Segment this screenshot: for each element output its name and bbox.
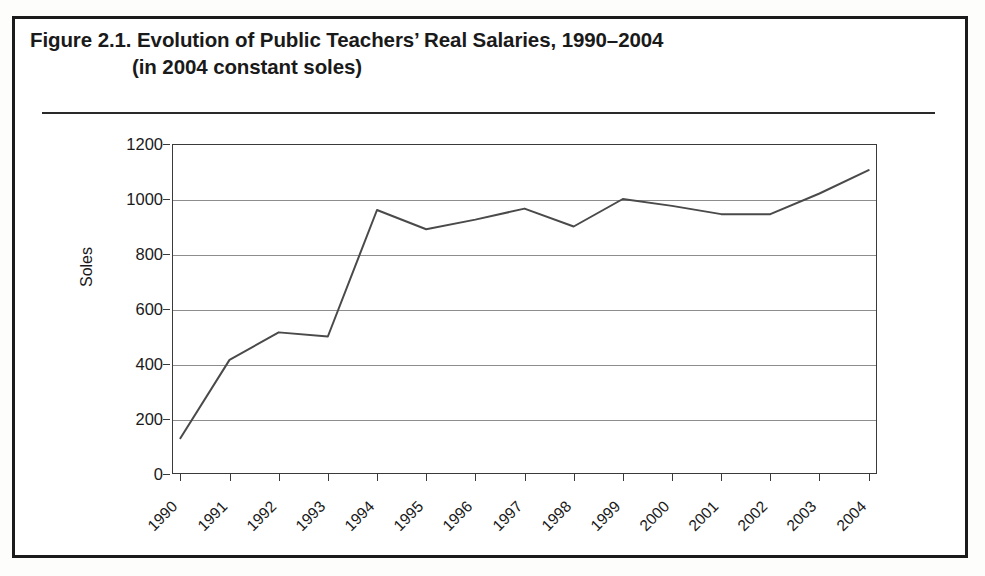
x-tick-mark-1996 — [475, 474, 476, 481]
x-tick-label-1995: 1995 — [390, 498, 427, 535]
x-tick-mark-2004 — [869, 474, 870, 481]
x-tick-mark-2000 — [672, 474, 673, 481]
y-tick-label-800: 800 — [135, 245, 163, 264]
x-tick-mark-2001 — [721, 474, 722, 481]
x-tick-label-1993: 1993 — [292, 498, 329, 535]
y-axis-tick-labels: 020040060080010001200 — [108, 144, 163, 474]
x-tick-mark-2002 — [770, 474, 771, 481]
x-tick-mark-1991 — [230, 474, 231, 481]
x-tick-label-1991: 1991 — [194, 498, 231, 535]
x-tick-label-1996: 1996 — [439, 498, 476, 535]
x-tick-mark-1992 — [279, 474, 280, 481]
x-tick-label-2000: 2000 — [636, 498, 673, 535]
series-polyline — [180, 170, 868, 438]
x-tick-label-1997: 1997 — [489, 498, 526, 535]
figure-root: Figure 2.1. Evolution of Public Teachers… — [0, 0, 985, 576]
x-tick-label-1999: 1999 — [587, 498, 624, 535]
x-tick-mark-1990 — [180, 474, 181, 481]
x-tick-mark-1998 — [574, 474, 575, 481]
y-tick-mark-0 — [163, 474, 170, 475]
x-tick-mark-1995 — [426, 474, 427, 481]
x-tick-mark-2003 — [819, 474, 820, 481]
x-tick-label-2002: 2002 — [734, 498, 771, 535]
x-tick-label-2003: 2003 — [783, 498, 820, 535]
y-axis-title: Soles — [78, 247, 96, 287]
y-tick-mark-400 — [163, 364, 170, 365]
y-tick-label-1200: 1200 — [126, 135, 163, 154]
y-tick-label-400: 400 — [135, 355, 163, 374]
x-tick-mark-1999 — [623, 474, 624, 481]
x-tick-mark-1993 — [328, 474, 329, 481]
x-tick-mark-1994 — [377, 474, 378, 481]
x-tick-label-1992: 1992 — [243, 498, 280, 535]
line-chart: 020040060080010001200 Soles 199019911992… — [0, 0, 985, 576]
y-tick-label-200: 200 — [135, 410, 163, 429]
x-axis-tick-marks — [172, 474, 877, 482]
x-tick-label-1990: 1990 — [144, 498, 181, 535]
y-tick-label-600: 600 — [135, 300, 163, 319]
y-tick-label-0: 0 — [154, 465, 163, 484]
x-tick-label-2004: 2004 — [833, 498, 870, 535]
x-tick-label-1994: 1994 — [341, 498, 378, 535]
y-tick-mark-200 — [163, 419, 170, 420]
x-tick-label-1998: 1998 — [538, 498, 575, 535]
y-tick-label-1000: 1000 — [126, 190, 163, 209]
y-tick-mark-800 — [163, 254, 170, 255]
x-axis-tick-labels: 1990199119921993199419951996199719981999… — [172, 482, 932, 552]
x-tick-label-2001: 2001 — [685, 498, 722, 535]
x-tick-mark-1997 — [525, 474, 526, 481]
y-tick-mark-1000 — [163, 199, 170, 200]
y-tick-mark-600 — [163, 309, 170, 310]
data-series-line — [172, 144, 877, 474]
y-tick-mark-1200 — [163, 144, 170, 145]
